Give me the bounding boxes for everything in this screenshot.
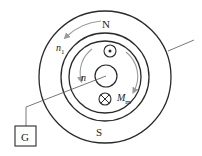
wire-to-galvanometer (26, 76, 106, 126)
galvanometer-label: G (21, 131, 29, 143)
conductor-out-icon (104, 45, 116, 57)
conductor-in-icon (99, 93, 111, 105)
motor-diagram: G N S n1 n Mm (0, 0, 202, 156)
torque-label: Mm (116, 92, 131, 106)
north-label: N (102, 18, 110, 30)
wire-right (168, 40, 194, 51)
south-label: S (96, 126, 102, 138)
rotor-speed-label: n (81, 72, 86, 83)
stator-speed-label: n1 (56, 42, 65, 56)
